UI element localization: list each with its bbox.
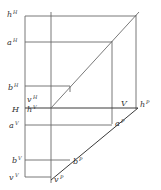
label-vP: v (54, 175, 59, 184)
label-aV: a (9, 121, 14, 130)
label-vV-superscript: V (15, 172, 20, 178)
label-hP: h (140, 100, 145, 109)
label-hH-superscript: H (12, 9, 18, 15)
label-vP-superscript: P (59, 174, 64, 180)
label-bH-superscript: H (13, 82, 19, 88)
label-bP-superscript: P (78, 156, 83, 162)
label-hP-superscript: P (145, 99, 150, 105)
label-bH: b (8, 83, 13, 92)
label-vH-superscript: H (32, 94, 38, 100)
label-aP-superscript: P (120, 118, 125, 124)
label-aV-superscript: V (15, 120, 20, 126)
label-bP: b (73, 157, 78, 166)
projection-diagram: hHaHbHvHHhVaVVhPaPbVbPvVvP (0, 0, 161, 190)
upper-diagonal-line (51, 12, 139, 108)
label-bV-superscript: V (18, 155, 23, 161)
label-aH-superscript: H (12, 37, 18, 43)
label-V: V (121, 99, 128, 108)
label-hV: h (27, 105, 32, 114)
label-hH: h (7, 10, 12, 19)
label-vH: v (27, 95, 32, 104)
label-aH: a (7, 38, 12, 47)
label-vV: v (9, 173, 14, 182)
label-bV: b (12, 156, 17, 165)
label-aP: a (115, 119, 120, 128)
label-H: H (11, 105, 20, 114)
label-hV-superscript: V (33, 104, 38, 110)
lower-diagonal-line (51, 108, 138, 180)
